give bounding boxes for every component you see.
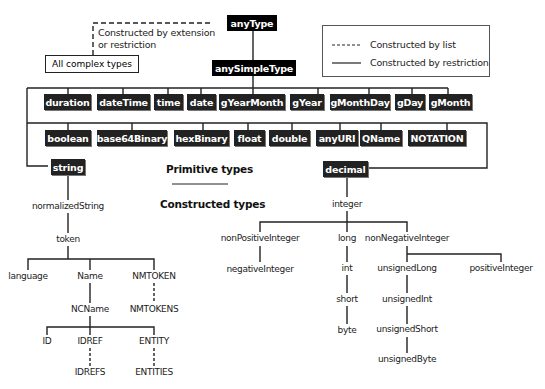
hexbinary-node: hexBinary <box>174 130 229 146</box>
complex-edge-label-1: Constructed by extension <box>98 27 215 38</box>
nmtoken-node: NMTOKEN <box>132 271 175 281</box>
anysimpletype-node: anySimpleType <box>212 60 296 76</box>
long-node: long <box>338 233 356 243</box>
name-node: Name <box>77 271 102 281</box>
anytype-node: anyType <box>227 15 277 31</box>
entities-node: ENTITIES <box>135 367 173 377</box>
negativeinteger-node: negativeInteger <box>226 264 293 274</box>
gmonthday-node: gMonthDay <box>330 94 390 110</box>
all-complex-types-node: All complex types <box>45 55 139 73</box>
gyearmonth-node: gYearMonth <box>219 94 285 110</box>
decimal-node: decimal <box>323 161 368 177</box>
date-node: date <box>187 94 216 110</box>
duration-node: duration <box>44 94 91 110</box>
nonnegativeinteger-node: nonNegativeInteger <box>365 233 449 243</box>
nonpositiveinteger-node: nonPositiveInteger <box>221 233 300 243</box>
notation-node: NOTATION <box>408 130 466 146</box>
int-node: int <box>342 263 353 273</box>
gmonth-node: gMonth <box>429 94 472 110</box>
legend: Constructed by list Constructed by restr… <box>322 25 490 77</box>
idref-node: IDREF <box>77 336 102 346</box>
gyear-node: gYear <box>290 94 324 110</box>
nmtokens-node: NMTOKENS <box>130 304 179 314</box>
legend-list-label: Constructed by list <box>370 39 456 50</box>
double-node: double <box>269 130 310 146</box>
ncname-node: NCName <box>71 304 109 314</box>
string-node: string <box>51 159 85 175</box>
idrefs-node: IDREFS <box>75 367 105 377</box>
legend-restriction-label: Constructed by restriction <box>370 57 489 68</box>
boolean-node: boolean <box>45 130 91 146</box>
unsignedshort-node: unsignedShort <box>376 324 438 334</box>
normalizedstring-node: normalizedString <box>32 201 104 211</box>
time-node: time <box>154 94 183 110</box>
unsignedint-node: unsignedInt <box>382 294 432 304</box>
language-node: language <box>8 271 48 281</box>
legend-line-samples <box>323 26 489 76</box>
anyuri-node: anyURI <box>316 130 358 146</box>
positiveinteger-node: positiveInteger <box>469 263 532 273</box>
token-node: token <box>56 234 80 244</box>
primitive-types-heading: Primitive types <box>166 163 253 175</box>
constructed-types-heading: Constructed types <box>160 198 265 210</box>
gday-node: gDay <box>395 94 425 110</box>
unsignedbyte-node: unsignedByte <box>378 354 436 364</box>
entity-node: ENTITY <box>139 336 169 346</box>
id-node: ID <box>43 336 52 346</box>
float-node: float <box>234 130 265 146</box>
complex-edge-label-2: or restriction <box>98 39 156 50</box>
datetime-node: dateTime <box>97 94 150 110</box>
integer-node: integer <box>332 199 362 209</box>
unsignedlong-node: unsignedLong <box>377 263 436 273</box>
qname-node: QName <box>360 130 402 146</box>
base64binary-node: base64Binary <box>97 130 167 146</box>
byte-node: byte <box>338 325 357 335</box>
short-node: short <box>336 294 358 304</box>
